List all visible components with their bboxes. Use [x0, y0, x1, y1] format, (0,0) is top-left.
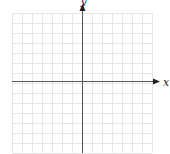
- y-axis-label: y: [80, 0, 88, 8]
- x-axis-label: x: [163, 76, 170, 89]
- coordinate-plane: x y: [0, 0, 170, 154]
- x-axis-arrow-icon: [153, 79, 160, 85]
